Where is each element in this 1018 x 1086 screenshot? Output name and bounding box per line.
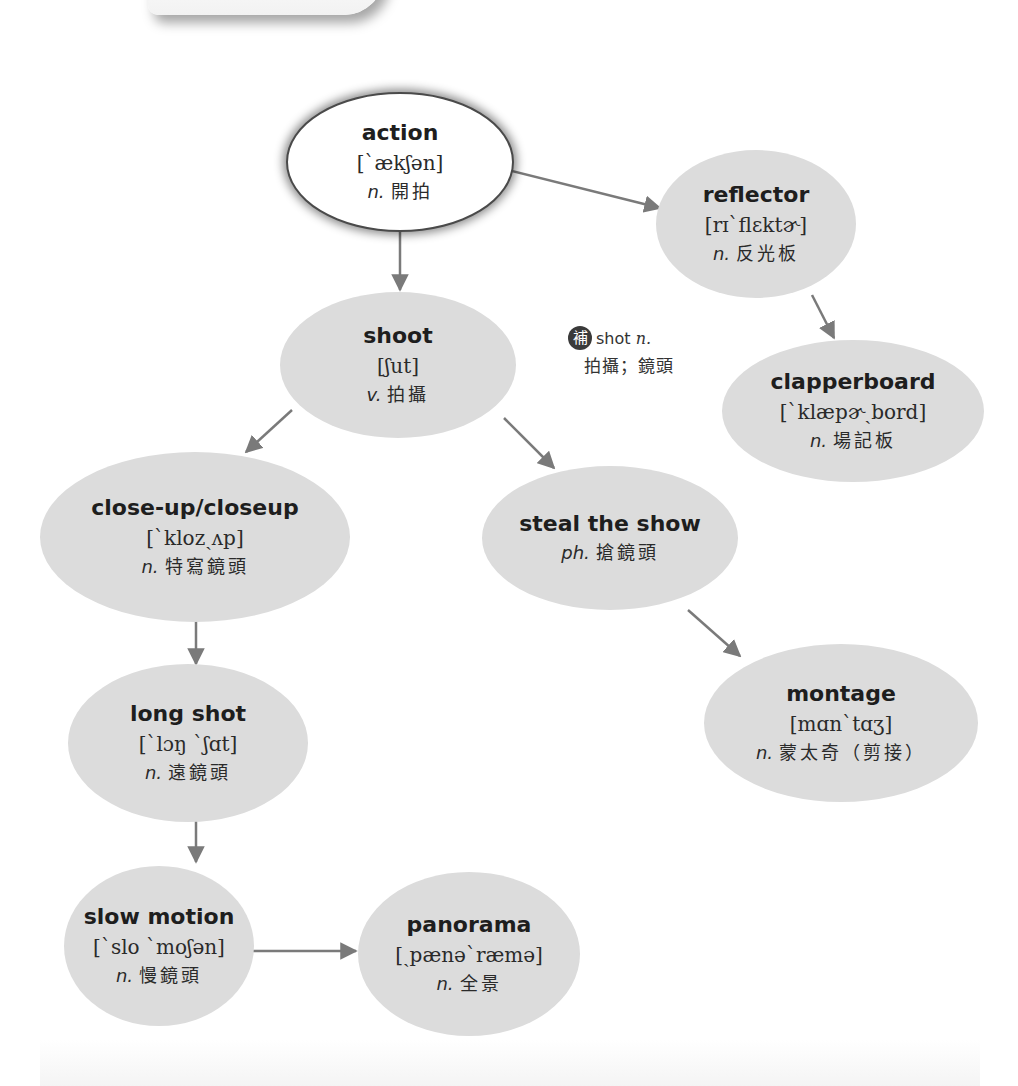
node-term: slow motion: [84, 902, 235, 932]
node-ipa: [ˋækʃən]: [357, 148, 444, 178]
node-definition: n.場記板: [810, 427, 896, 455]
node-definition: n.開拍: [367, 178, 432, 206]
note-part-of-speech: n.: [636, 329, 651, 348]
node-definition: n.遠鏡頭: [145, 759, 231, 787]
node-clapperboard: clapperboard [ˋklæpɚˏbord] n.場記板: [722, 340, 984, 482]
node-ipa: [rɪˋflɛktɚ]: [705, 210, 807, 240]
node-meaning: 搶鏡頭: [596, 542, 659, 563]
top-card-decoration: [148, 0, 384, 15]
part-of-speech: n.: [367, 181, 384, 202]
node-term: montage: [786, 679, 896, 709]
node-panorama: panorama [ˏpænəˋræmə] n.全景: [358, 872, 580, 1036]
node-term: panorama: [407, 910, 532, 940]
node-long-shot: long shot [ˋlɔŋ ˋʃɑt] n.遠鏡頭: [68, 664, 308, 822]
node-definition: n.全景: [436, 970, 501, 998]
edge-action-reflector: [492, 166, 660, 208]
node-term: shoot: [363, 321, 433, 351]
node-shoot: shoot [ʃut] v.拍攝: [280, 292, 516, 438]
bottom-faded-strip: [40, 1040, 980, 1086]
node-definition: n.特寫鏡頭: [141, 553, 248, 581]
node-term: reflector: [703, 180, 810, 210]
node-term: long shot: [130, 699, 246, 729]
node-term: clapperboard: [771, 367, 936, 397]
node-meaning: 遠鏡頭: [168, 762, 231, 783]
node-meaning: 場記板: [833, 430, 896, 451]
edge-shoot-steal: [504, 418, 554, 468]
node-ipa: [ˋklozˏʌp]: [146, 523, 243, 553]
node-montage: montage [mɑnˋtɑʒ] n.蒙太奇（剪接）: [704, 644, 978, 802]
node-action: action [ˋækʃən] n.開拍: [286, 92, 514, 232]
note-meaning: 拍攝；鏡頭: [584, 352, 674, 377]
node-meaning: 開拍: [391, 181, 433, 202]
node-meaning: 拍攝: [387, 384, 429, 405]
node-definition: n.蒙太奇（剪接）: [756, 739, 926, 767]
edge-reflector-clapperboard: [812, 295, 834, 338]
part-of-speech: n.: [810, 430, 827, 451]
node-term: close-up/closeup: [91, 493, 298, 523]
part-of-speech: n.: [141, 556, 158, 577]
part-of-speech: n.: [713, 243, 730, 264]
node-ipa: [ˋslo ˋmoʃən]: [93, 932, 225, 962]
node-term: steal the show: [519, 509, 701, 539]
node-closeup: close-up/closeup [ˋklozˏʌp] n.特寫鏡頭: [40, 452, 350, 622]
node-meaning: 全景: [460, 973, 502, 994]
part-of-speech: n.: [436, 973, 453, 994]
node-ipa: [ˏpænəˋræmə]: [395, 940, 543, 970]
node-meaning: 慢鏡頭: [139, 965, 202, 986]
part-of-speech: n.: [145, 762, 162, 783]
part-of-speech: ph.: [561, 542, 590, 563]
node-reflector: reflector [rɪˋflɛktɚ] n.反光板: [656, 150, 856, 298]
node-meaning: 反光板: [736, 243, 799, 264]
part-of-speech: v.: [367, 384, 382, 405]
node-definition: n.慢鏡頭: [116, 962, 202, 990]
node-slow-motion: slow motion [ˋslo ˋmoʃən] n.慢鏡頭: [64, 866, 254, 1026]
node-definition: n.反光板: [713, 240, 799, 268]
part-of-speech: n.: [116, 965, 133, 986]
supplementary-note: 補shot n. 拍攝；鏡頭: [568, 326, 674, 377]
note-word: shot: [596, 329, 631, 348]
edge-shoot-closeup: [246, 410, 292, 452]
supplement-badge-icon: 補: [568, 326, 592, 350]
node-definition: ph.搶鏡頭: [561, 539, 659, 567]
node-ipa: [ˋlɔŋ ˋʃɑt]: [139, 729, 238, 759]
node-ipa: [mɑnˋtɑʒ]: [790, 709, 892, 739]
node-definition: v.拍攝: [367, 381, 430, 409]
node-ipa: [ˋklæpɚˏbord]: [780, 397, 926, 427]
node-meaning: 蒙太奇（剪接）: [779, 742, 926, 763]
node-meaning: 特寫鏡頭: [165, 556, 249, 577]
node-ipa: [ʃut]: [377, 351, 419, 381]
edge-steal-montage: [688, 610, 740, 656]
part-of-speech: n.: [756, 742, 773, 763]
node-steal-the-show: steal the show ph.搶鏡頭: [482, 466, 738, 610]
node-term: action: [362, 118, 439, 148]
